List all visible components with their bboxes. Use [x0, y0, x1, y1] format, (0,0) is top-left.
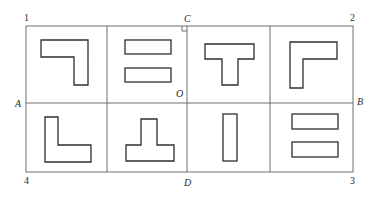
shape-cell-7-bar-1	[223, 114, 237, 161]
outer-frame	[26, 26, 353, 172]
point-label-B: B	[357, 97, 363, 107]
pattern-diagram	[0, 0, 375, 203]
shape-cell-6	[126, 119, 174, 161]
shapes-group	[41, 40, 338, 162]
right-angle-marker	[182, 26, 187, 31]
shape-cell-2-bar-2	[125, 68, 171, 82]
corner-label-2: 2	[350, 13, 355, 23]
corner-label-3: 3	[350, 176, 355, 186]
shape-cell-8-bar-2	[292, 142, 338, 157]
shape-cell-4	[290, 42, 337, 88]
point-label-O: O	[176, 89, 183, 99]
shape-cell-3	[205, 44, 254, 85]
shape-cell-5	[45, 117, 91, 162]
shape-cell-2-bar-1	[125, 40, 171, 54]
corner-label-1: 1	[24, 13, 29, 23]
point-label-C: C	[184, 14, 191, 24]
shape-cell-1	[41, 40, 88, 85]
corner-label-4: 4	[24, 176, 29, 186]
point-label-D: D	[184, 178, 191, 188]
point-label-A: A	[15, 99, 21, 109]
shape-cell-8-bar-1	[292, 114, 338, 129]
